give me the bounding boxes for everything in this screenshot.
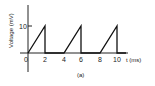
- x-tick-label: 2: [43, 56, 47, 63]
- x-axis-label: t (ms): [126, 57, 141, 63]
- figure-caption: (a): [77, 72, 84, 78]
- x-tick-label: 0: [24, 56, 28, 63]
- x-tick-label: 6: [79, 56, 83, 63]
- x-tick-label: 4: [62, 56, 66, 63]
- y-axis-label: Voltage (mV): [8, 13, 14, 48]
- voltage-signal: [28, 26, 126, 53]
- sawtooth-chart: 10 0 2 4 6 8 10 t (ms) Voltage (mV) (a): [0, 0, 155, 86]
- y-tick-label: 10: [19, 23, 27, 30]
- x-tick-label: 8: [98, 56, 102, 63]
- x-tick-label: 10: [113, 56, 121, 63]
